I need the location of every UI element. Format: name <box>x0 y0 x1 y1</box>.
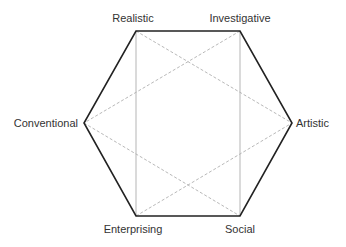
edge-conventional-social <box>84 123 240 216</box>
hexagon-svg: Realistic Investigative Artistic Social … <box>0 0 346 247</box>
edge-enterprising-artistic <box>136 123 292 216</box>
label-enterprising: Enterprising <box>104 223 163 235</box>
inner-dashed-lines <box>84 31 292 216</box>
inner-solid-lines <box>136 31 240 216</box>
label-conventional: Conventional <box>14 117 78 129</box>
label-investigative: Investigative <box>209 12 270 24</box>
label-realistic: Realistic <box>112 12 154 24</box>
label-artistic: Artistic <box>296 117 330 129</box>
edge-realistic-artistic <box>136 31 292 123</box>
label-social: Social <box>225 223 255 235</box>
edge-investigative-conventional <box>84 31 240 123</box>
hexagon-outline <box>84 31 292 216</box>
holland-hexagon-diagram: Realistic Investigative Artistic Social … <box>0 0 346 247</box>
